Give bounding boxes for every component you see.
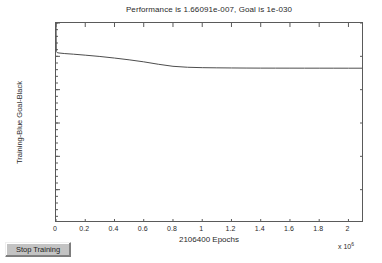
x-multiplier-exponent: 6 [351,241,354,247]
x-tick-label: 0.6 [128,225,158,233]
x-tick-label: 0.4 [98,225,128,233]
x-multiplier-base: x 10 [338,243,351,250]
x-tick-label: 1.6 [274,225,304,233]
x-tick-label: 2 [332,225,362,233]
x-axis-multiplier: x 106 [338,243,354,250]
x-tick-label: 1.8 [303,225,333,233]
x-axis-tick-labels: 00.20.40.60.811.21.41.61.82 [0,0,382,263]
x-tick-label: 0.8 [157,225,187,233]
x-tick-label: 0 [40,225,70,233]
x-tick-label: 1 [186,225,216,233]
performance-figure: Performance is 1.66091e-007, Goal is 1e-… [0,0,382,263]
x-tick-label: 1.2 [215,225,245,233]
x-tick-label: 1.4 [245,225,275,233]
stop-training-button[interactable]: Stop Training [5,242,71,257]
x-axis-label: 2106400 Epochs [55,235,363,244]
x-tick-label: 0.2 [69,225,99,233]
